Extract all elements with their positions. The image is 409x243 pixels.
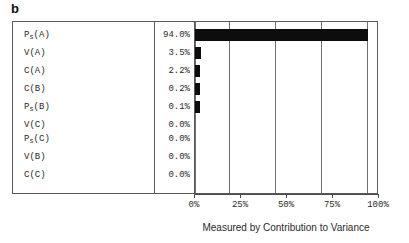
chart-row: C(C)0.0% bbox=[13, 166, 377, 184]
row-bar bbox=[195, 101, 200, 113]
tick-mark-75% bbox=[332, 194, 333, 198]
chart-row: Ps(C)0.0% bbox=[13, 130, 377, 148]
row-value: 3.5% bbox=[154, 44, 190, 62]
row-label: V(B) bbox=[24, 148, 46, 166]
chart-row: V(B)0.0% bbox=[13, 148, 377, 166]
row-label: Ps(B) bbox=[24, 98, 50, 116]
row-value: 2.2% bbox=[154, 62, 190, 80]
row-label: C(A) bbox=[24, 62, 46, 80]
panel-label: b bbox=[11, 1, 19, 16]
tick-mark-25% bbox=[240, 194, 241, 198]
variance-contribution-table-chart: Ps(A)94.0%V(A)3.5%C(A)2.2%C(B)0.2%Ps(B)0… bbox=[12, 21, 378, 194]
x-axis-caption: Measured by Contribution to Variance bbox=[194, 222, 378, 233]
tick-label-25%: 25% bbox=[232, 200, 248, 210]
row-label: V(A) bbox=[24, 44, 46, 62]
row-bar bbox=[195, 29, 368, 41]
chart-row: Ps(A)94.0% bbox=[13, 26, 377, 44]
row-value: 0.1% bbox=[154, 98, 190, 116]
row-label: C(B) bbox=[24, 80, 46, 98]
row-bar bbox=[195, 47, 201, 59]
row-label: Ps(A) bbox=[24, 26, 50, 44]
row-value: 0.2% bbox=[154, 80, 190, 98]
chart-row: C(B)0.2% bbox=[13, 80, 377, 98]
tick-mark-100% bbox=[378, 194, 379, 198]
row-value: 94.0% bbox=[154, 26, 190, 44]
tick-mark-0% bbox=[194, 194, 195, 198]
chart-row: V(A)3.5% bbox=[13, 44, 377, 62]
row-bar bbox=[195, 65, 200, 77]
row-value: 0.0% bbox=[154, 166, 190, 184]
chart-row: Ps(B)0.1% bbox=[13, 98, 377, 116]
row-value: 0.0% bbox=[154, 130, 190, 148]
tick-mark-50% bbox=[286, 194, 287, 198]
tick-label-100%: 100% bbox=[367, 200, 389, 210]
tick-label-75%: 75% bbox=[324, 200, 340, 210]
row-bar bbox=[195, 83, 200, 95]
tick-label-0%: 0% bbox=[189, 200, 200, 210]
row-value: 0.0% bbox=[154, 148, 190, 166]
chart-row: C(A)2.2% bbox=[13, 62, 377, 80]
row-label: Ps(C) bbox=[24, 130, 50, 148]
tick-label-50%: 50% bbox=[278, 200, 294, 210]
row-label: C(C) bbox=[24, 166, 46, 184]
